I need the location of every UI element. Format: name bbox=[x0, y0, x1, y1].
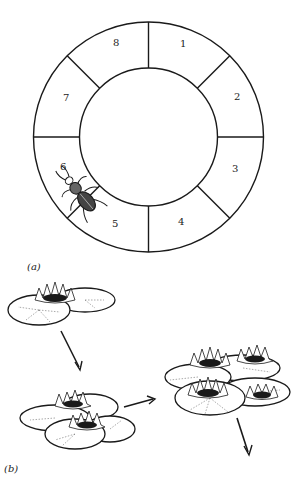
panel-label-b: (b) bbox=[4, 463, 18, 474]
segment-label-7: 7 bbox=[63, 92, 69, 103]
beetle-icon bbox=[45, 157, 111, 226]
ring-inner-circle bbox=[80, 68, 218, 206]
segment-label-8: 8 bbox=[113, 37, 119, 48]
segment-label-3: 3 bbox=[232, 163, 238, 174]
lily-flower bbox=[35, 282, 75, 303]
diagram-figure: 1 2 3 4 5 6 7 8 (a) bbox=[0, 0, 302, 477]
segment-label-4: 4 bbox=[178, 216, 184, 227]
lily-stage-1 bbox=[8, 282, 115, 325]
lily-stage-2 bbox=[20, 390, 135, 449]
lily-flower bbox=[237, 345, 273, 364]
lily-flower bbox=[55, 390, 91, 409]
segment-label-1: 1 bbox=[180, 38, 186, 49]
arrow-stage1-to-stage2 bbox=[61, 331, 79, 367]
panel-label-a: (a) bbox=[27, 261, 41, 272]
lily-stage-3 bbox=[165, 345, 290, 415]
segment-label-5: 5 bbox=[112, 218, 118, 229]
segment-label-2: 2 bbox=[234, 91, 240, 102]
ring-dividers bbox=[34, 22, 264, 252]
lily-flower bbox=[190, 347, 230, 368]
arrow-stage2-to-stage3 bbox=[124, 399, 153, 407]
segment-ring: 1 2 3 4 5 6 7 8 bbox=[34, 22, 264, 252]
arrow-stage3-onward bbox=[237, 418, 248, 452]
